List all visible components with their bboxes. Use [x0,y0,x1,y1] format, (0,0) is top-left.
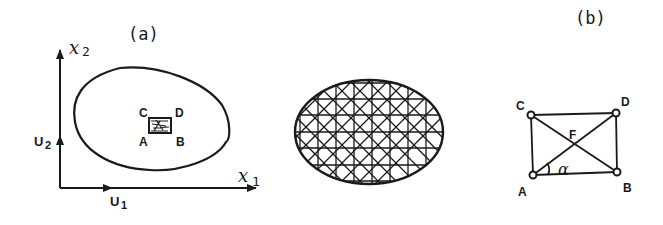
diagonal-cb [531,115,617,172]
svg-text:2: 2 [82,44,90,59]
svg-text:x: x [69,37,79,58]
figure-canvas: (a) x 2 x 1 U 2 U 1 C D [0,0,663,225]
node-c [528,112,535,119]
panel-a: (a) x 2 x 1 U 2 U 1 C D [34,24,260,211]
x1-axis-label: x 1 [238,165,260,189]
node-label-d: D [621,95,630,109]
panel-b: (b) C D A B F α [516,8,632,199]
corner-label-b: B [176,135,185,149]
node-d [613,110,620,117]
node-b [614,169,621,176]
svg-text:1: 1 [121,199,127,211]
node-label-b: B [623,181,632,195]
angle-arc [547,163,549,175]
x2-axis-label: x 2 [69,37,90,59]
svg-text:U: U [110,194,119,209]
center-label-f: F [569,128,576,142]
svg-text:1: 1 [252,174,260,189]
panel-a-title: (a) [128,24,159,44]
corner-label-d: D [175,106,184,120]
node-a [530,172,537,179]
panel-b-title: (b) [575,8,606,28]
angle-label-alpha: α [558,160,569,179]
svg-text:U: U [34,134,43,149]
corner-label-c: C [139,106,148,120]
u2-label: U 2 [34,134,51,151]
node-label-c: C [516,99,525,113]
corner-label-a: A [139,135,148,149]
svg-text:2: 2 [45,139,51,151]
svg-text:x: x [238,165,248,186]
u1-label: U 1 [110,194,127,211]
element-quad [531,113,617,175]
small-element [149,118,171,133]
node-label-a: A [518,185,527,199]
